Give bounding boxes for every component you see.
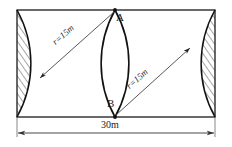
rectangle-outline bbox=[17, 10, 215, 117]
geometry-diagram: A B 30m r=15m r=15m bbox=[0, 0, 232, 147]
lens-arc-upper-right bbox=[115, 10, 129, 117]
point-label-b: B bbox=[107, 98, 114, 109]
width-dimension-label: 30m bbox=[101, 120, 119, 130]
point-label-a: A bbox=[116, 12, 124, 23]
hatched-regions bbox=[17, 10, 215, 117]
